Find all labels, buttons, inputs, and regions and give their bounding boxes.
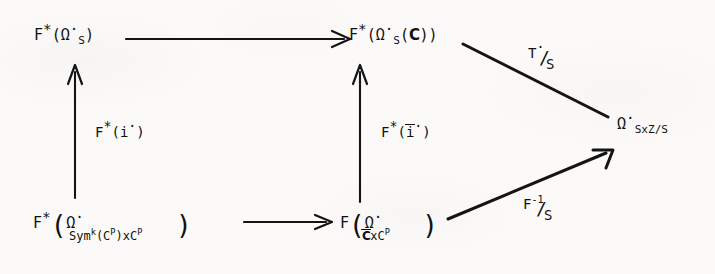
node-top-middle: F*(Ω·S(C)) xyxy=(349,28,438,43)
node-top-left-prime: · xyxy=(70,21,79,37)
node-bottom-left-star: * xyxy=(42,209,51,225)
upper-diagonal-denominator: S xyxy=(546,57,554,71)
node-bottom-middle-sub-mid: xC xyxy=(370,229,384,243)
left-vertical-close: ) xyxy=(136,124,144,140)
lower-diagonal-denominator: S xyxy=(544,208,552,222)
edge-label-lower-diagonal: F-1 / S xyxy=(523,197,559,223)
node-bottom-middle-functor: F xyxy=(340,214,349,232)
edge-bottom-horizontal xyxy=(244,215,332,229)
node-bottom-middle-subscript: CxCP xyxy=(362,230,390,242)
edge-middle-vertical xyxy=(353,65,367,202)
edge-left-vertical xyxy=(68,65,82,198)
diagram-canvas: F*(Ω·S) F*(Ω·S(C)) Ω·SxZ/S F*(Ω·) Symk(C… xyxy=(0,0,715,274)
node-top-left-sub: S xyxy=(78,34,85,47)
node-top-middle-sub: S xyxy=(393,34,400,47)
node-right: Ω·SxZ/S xyxy=(617,117,668,132)
node-top-left-open: ( xyxy=(52,26,61,44)
edge-top-horizontal xyxy=(126,31,350,47)
node-bottom-left-sub-sym: Sym xyxy=(69,229,91,243)
node-bottom-left-stack: F*(Ω·) Symk(CP)xCP xyxy=(33,212,192,238)
edge-label-middle-vertical: F*(i·) xyxy=(381,125,431,139)
node-bottom-middle-sub-p: P xyxy=(385,227,390,237)
node-top-left-close: ) xyxy=(85,26,94,44)
middle-vertical-symbol-overbar: i xyxy=(406,125,414,139)
node-right-sub: SxZ/S xyxy=(635,123,668,136)
node-top-middle-close: ) xyxy=(429,26,438,44)
node-top-left-star: * xyxy=(43,21,52,37)
node-top-middle-functor: F xyxy=(349,26,358,44)
node-bottom-middle-prime: · xyxy=(374,209,383,225)
node-bottom-left-subscript: Symk(CP)xCP xyxy=(69,230,142,242)
node-top-left-functor: F xyxy=(34,26,43,44)
node-bottom-middle: F(Ω·) CxCP xyxy=(340,212,438,238)
node-top-middle-arg-open: ( xyxy=(400,26,409,44)
edge-label-left-vertical: F*(i·) xyxy=(95,125,145,139)
node-bottom-middle-close: ) xyxy=(422,210,438,240)
node-right-prime: · xyxy=(626,110,635,126)
edge-label-upper-diagonal: T· / S xyxy=(528,46,558,72)
node-top-middle-open: ( xyxy=(367,26,376,44)
node-bottom-left-close: ) xyxy=(176,210,192,240)
upper-diagonal-fraction: T· / S xyxy=(528,46,558,72)
node-top-left-omega: Ω xyxy=(61,26,70,44)
node-bottom-left-open: ( xyxy=(51,210,67,240)
node-top-middle-omega: Ω xyxy=(376,26,385,44)
node-top-middle-arg-close: ) xyxy=(420,26,429,44)
node-bottom-left: F*(Ω·) Symk(CP)xCP xyxy=(33,212,192,238)
node-top-left: F*(Ω·S) xyxy=(34,28,94,43)
node-top-middle-curve-symbol: C xyxy=(409,26,420,44)
middle-vertical-close: ) xyxy=(422,124,430,140)
node-top-middle-prime: · xyxy=(385,21,394,37)
node-bottom-middle-stack: F(Ω·) CxCP xyxy=(340,212,438,238)
middle-vertical-open: ( xyxy=(397,124,405,140)
left-vertical-open: ( xyxy=(111,124,119,140)
node-top-middle-star: * xyxy=(358,21,367,37)
node-right-omega: Ω xyxy=(617,115,626,133)
node-bottom-middle-cbar: C xyxy=(362,230,370,242)
node-bottom-left-prime: · xyxy=(75,209,84,225)
node-bottom-left-sub-c1: (C xyxy=(96,229,110,243)
node-bottom-left-functor: F xyxy=(33,214,42,232)
node-bottom-left-sub-p2: P xyxy=(137,227,142,237)
node-bottom-left-sub-mid: )xC xyxy=(116,229,138,243)
lower-diagonal-fraction: F-1 / S xyxy=(523,197,559,223)
